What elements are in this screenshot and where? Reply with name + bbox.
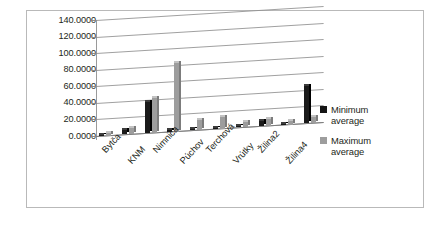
bar-max	[197, 120, 202, 130]
bar-min	[213, 128, 218, 129]
legend-swatch-minimum-icon	[320, 106, 327, 113]
bar-min	[145, 102, 150, 133]
bar-min	[304, 86, 309, 123]
bar-max	[288, 121, 293, 124]
y-axis-tick-label: 100.0000	[28, 49, 96, 58]
bar-group	[190, 16, 213, 148]
y-axis-tick-mark	[92, 119, 96, 120]
bar-max	[311, 117, 316, 124]
bar-max	[174, 63, 179, 132]
screenshot-root: 140.0000120.0000100.000080.000060.000040…	[0, 0, 442, 238]
bar-min	[236, 126, 241, 127]
bar-min	[259, 121, 264, 126]
bar-min	[99, 135, 104, 136]
bar-max	[152, 98, 157, 133]
y-axis-tick-label: 20.0000	[28, 115, 96, 124]
y-axis-tick-mark	[92, 103, 96, 104]
bar-min	[190, 129, 195, 130]
y-axis-tick-label: 80.0000	[28, 65, 96, 74]
y-axis-tick-label: 120.0000	[28, 32, 96, 41]
legend-maximum-line2: average	[331, 146, 420, 157]
legend-label-maximum: Maximum average	[331, 135, 420, 157]
y-axis-tick-mark	[92, 53, 96, 54]
bar-group	[99, 16, 122, 148]
legend-minimum-line2: average	[331, 115, 420, 126]
y-axis-line	[96, 20, 97, 140]
bar-group	[236, 16, 259, 148]
bar-max	[129, 128, 134, 135]
y-axis-tick-label: 0.0000	[28, 132, 96, 141]
plot-area	[96, 16, 328, 148]
y-axis-tick-label: 140.0000	[28, 16, 96, 25]
bar-min	[281, 124, 286, 125]
legend-minimum-line1: Minimum	[331, 104, 420, 115]
y-axis-tick-mark	[92, 20, 96, 21]
legend-swatch-maximum-icon	[320, 137, 327, 144]
bar-group	[145, 16, 168, 148]
bar-group	[122, 16, 145, 148]
y-axis-labels: 140.0000120.0000100.000080.000060.000040…	[28, 14, 96, 146]
legend-maximum-line1: Maximum	[331, 135, 420, 146]
y-axis-tick-label: 40.0000	[28, 98, 96, 107]
y-axis-tick-mark	[92, 70, 96, 71]
bar-max	[266, 119, 271, 126]
legend-item-minimum-average: Minimum average	[320, 104, 420, 126]
bar-group	[281, 16, 304, 148]
y-axis-tick-mark	[92, 37, 96, 38]
bar-min	[122, 130, 127, 135]
legend-label-minimum: Minimum average	[331, 104, 420, 126]
y-axis-tick-mark	[92, 86, 96, 87]
x-axis-labels: BytčaKNMNimnicaPúchovTerchováVrútkyŽilin…	[96, 146, 336, 206]
bar-group	[259, 16, 282, 148]
x-axis-tick-label: KNM	[126, 144, 147, 166]
y-axis-tick-label: 60.0000	[28, 82, 96, 91]
chart-legend: Minimum average Maximum average	[320, 104, 420, 166]
bar-max	[243, 122, 248, 127]
legend-item-maximum-average: Maximum average	[320, 135, 420, 157]
